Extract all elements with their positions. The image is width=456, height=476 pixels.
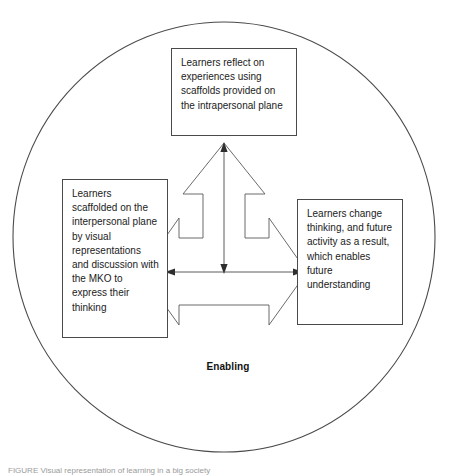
node-box-right: Learners change thinking, and future act… (297, 199, 403, 325)
node-box-left: Learners scaffolded on the interpersonal… (62, 179, 168, 338)
enabling-label: Enabling (0, 361, 456, 372)
node-box-top: Learners reflect on experiences using sc… (171, 48, 297, 136)
figure-caption: FIGURE Visual representation of learning… (8, 466, 448, 476)
